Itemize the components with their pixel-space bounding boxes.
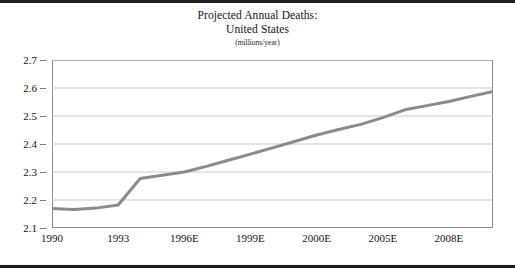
y-axis-tick-mark [40, 88, 46, 89]
y-axis-tick-mark [40, 172, 46, 173]
x-axis-tick-label: 1996E [170, 232, 199, 244]
page-subtitle-region: United States [0, 23, 515, 37]
x-axis-tick-label: 2000E [302, 232, 331, 244]
x-axis: 199019931996E1999E2000E2005E2008E [52, 232, 493, 250]
x-axis-tick-label: 1993 [107, 232, 129, 244]
line-chart-svg [52, 60, 493, 228]
x-axis-tick-label: 2005E [368, 232, 397, 244]
x-axis-tick-label: 1990 [41, 232, 63, 244]
x-axis-tick-label: 2008E [435, 232, 464, 244]
y-axis-tick-mark [40, 144, 46, 145]
y-axis-tick-label: 2.3 [23, 167, 37, 178]
x-axis-tick-label: 1999E [236, 232, 265, 244]
y-axis-tick-mark [40, 200, 46, 201]
y-axis-tick-label: 2.4 [23, 139, 37, 150]
plot-area [52, 60, 493, 228]
page-title: Projected Annual Deaths: [0, 9, 515, 23]
y-axis: 2.12.22.32.42.52.62.7 [0, 60, 46, 228]
y-axis-tick-mark [40, 228, 46, 229]
data-series-line [52, 80, 493, 210]
gridlines [52, 60, 493, 200]
y-axis-tick-label: 2.1 [23, 223, 37, 234]
y-axis-tick-label: 2.5 [23, 111, 37, 122]
chart-title-block: Projected Annual Deaths: United States (… [0, 9, 515, 48]
y-axis-tick-mark [40, 116, 46, 117]
y-axis-tick-label: 2.2 [23, 195, 37, 206]
figure-container: Projected Annual Deaths: United States (… [0, 0, 515, 268]
y-axis-tick-mark [40, 60, 46, 61]
units-label: (millions/year) [0, 37, 515, 48]
y-axis-tick-label: 2.6 [23, 83, 37, 94]
y-axis-tick-label: 2.7 [23, 55, 37, 66]
